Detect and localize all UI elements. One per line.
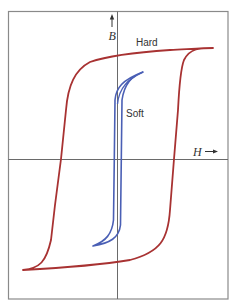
soft-curve-label: Soft — [126, 108, 144, 119]
hysteresis-diagram: B H Hard Soft — [0, 0, 236, 303]
h-axis-arrow-icon — [205, 150, 218, 154]
hard-curve-label: Hard — [136, 37, 158, 48]
b-axis-arrow-icon — [110, 14, 114, 27]
b-axis-label: B — [109, 29, 117, 43]
h-axis-label: H — [192, 145, 203, 159]
